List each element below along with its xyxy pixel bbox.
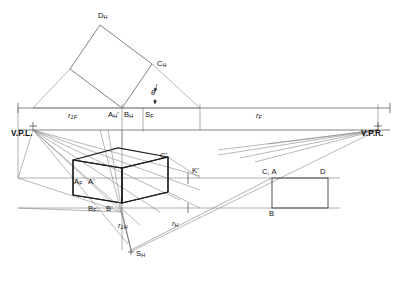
label-vpl: V.P.L. [11,130,33,138]
label-d-h: DH [98,12,108,20]
label-rh: rH [172,220,179,227]
label-c-a: C, A [262,168,277,176]
perspective-drawing-canvas: DH CH θ AH' BH SF r1F rF r1H rH V.P.L. V… [0,0,398,281]
label-b-h: BH [124,111,133,119]
vpl-baseline-rays [18,130,122,212]
label-b: B [269,210,274,218]
label-r1h: r1H [118,222,128,229]
label-r1f: r1F [68,112,77,119]
label-rf: rF [256,112,262,119]
label-d: D [320,168,326,176]
label-a-f: AF [74,178,83,186]
elevation-rectangle [272,178,328,208]
station-point-marker [128,249,134,255]
label-k-prime: K' [192,167,199,175]
label-b-prime: B' [106,205,113,213]
label-s-f: SF [145,111,154,119]
label-vpr: V.P.R. [361,130,383,138]
label-a-h-prime: AH' [108,111,119,119]
label-c-prime: C' [160,152,167,160]
box-right-rays [168,157,200,208]
label-c-h: CH [157,60,167,68]
vpr-convergence-lines [130,130,378,252]
label-theta: θ [151,89,155,97]
label-b-f: BF, [88,205,99,213]
label-a-prime: A' [88,178,95,186]
plan-rotated-rectangle [70,25,152,108]
label-s-h: SH [136,250,145,258]
construction-linework [0,0,398,281]
plan-sight-lines [33,64,200,108]
